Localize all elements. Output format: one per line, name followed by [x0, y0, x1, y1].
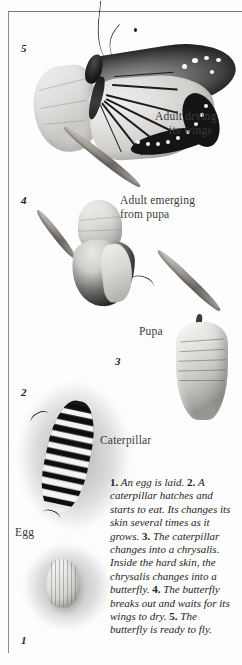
wing-spot [166, 140, 170, 144]
page-canvas: 5 Adult drying its wings 4 Adult emergin… [0, 0, 242, 665]
caption-num-1: 1. [110, 476, 118, 488]
chrysalis-ring [179, 380, 225, 381]
stage-number-2: 2 [21, 386, 27, 398]
illustration-pupa [150, 300, 242, 436]
figure-caption: 1. An egg is laid. 2. A caterpillar hatc… [110, 476, 236, 637]
label-pupa: Pupa [139, 325, 163, 338]
stage-number-5: 5 [21, 42, 27, 54]
stage-number-3: 3 [115, 355, 121, 367]
stage-number-1: 1 [21, 634, 27, 646]
left-rule [8, 12, 9, 653]
twig-branch [34, 208, 77, 260]
label-adult-emerging-line2: from pupa [120, 208, 169, 221]
forewing-spot [216, 58, 221, 62]
label-adult-drying-line1: Adult drying [155, 110, 217, 123]
forewing-spot [192, 58, 198, 63]
label-adult-emerging-line1: Adult emerging [120, 194, 195, 207]
stage-number-4: 4 [21, 194, 27, 206]
wing-spot [156, 142, 160, 146]
wing-spot [136, 140, 140, 144]
caption-num-5: 5. [169, 610, 177, 622]
forewing-spot [204, 56, 209, 60]
caption-num-3: 3. [142, 530, 150, 542]
label-caterpillar: Caterpillar [100, 434, 151, 447]
top-rule [8, 11, 242, 12]
illustration-adult-butterfly [34, 18, 242, 163]
forewing-spot [210, 70, 214, 74]
label-adult-drying-line2: its wings [169, 124, 212, 137]
forewing-spot [182, 64, 187, 69]
butterfly-leg [128, 273, 155, 295]
antenna-club-icon [134, 28, 137, 32]
wing-spot [204, 104, 208, 108]
wing-spot [146, 142, 150, 146]
illustration-egg [24, 542, 110, 638]
label-egg: Egg [15, 526, 34, 539]
caption-text-1: An egg is laid. [118, 476, 187, 488]
